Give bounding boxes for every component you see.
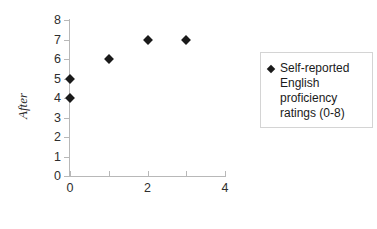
x-axis-tick xyxy=(186,171,187,176)
legend-entry-label: Self-reported English proficiency rating… xyxy=(280,61,368,121)
y-axis-tick-label: 7 xyxy=(39,34,61,47)
legend-entry: Self-reported English proficiency rating… xyxy=(268,61,368,121)
scatter-chart: 012345678 024 After Self-reported Englis… xyxy=(0,0,377,229)
y-axis-tick-label: 6 xyxy=(39,53,61,66)
data-point xyxy=(143,35,153,45)
y-axis-tick-label: 4 xyxy=(39,92,61,105)
x-axis-tick xyxy=(225,171,226,176)
y-axis-tick-label: 5 xyxy=(39,73,61,86)
x-axis-tick-label: 0 xyxy=(58,182,82,195)
x-axis-tick-label: 2 xyxy=(136,182,160,195)
data-point xyxy=(65,93,75,103)
y-axis-tick-label: 2 xyxy=(39,131,61,144)
y-axis-tick xyxy=(64,40,69,41)
y-axis-tick xyxy=(64,157,69,158)
data-point xyxy=(65,74,75,84)
y-axis-tick-label: 1 xyxy=(39,151,61,164)
y-axis-tick xyxy=(64,20,69,21)
y-axis-tick-label: 8 xyxy=(39,14,61,27)
legend: Self-reported English proficiency rating… xyxy=(260,52,373,128)
x-axis-tick xyxy=(148,171,149,176)
x-axis-line xyxy=(69,176,226,177)
diamond-marker-icon xyxy=(267,65,275,73)
y-axis-tick-label: 0 xyxy=(39,170,61,183)
y-axis-tick xyxy=(64,118,69,119)
x-axis-tick xyxy=(109,171,110,176)
y-axis-tick xyxy=(64,176,69,177)
data-point xyxy=(104,54,114,64)
x-axis-tick xyxy=(70,171,71,176)
y-axis-title: After xyxy=(15,76,31,136)
data-point xyxy=(181,35,191,45)
x-axis-tick-label: 4 xyxy=(213,182,237,195)
y-axis-tick-label: 3 xyxy=(39,112,61,125)
y-axis-tick xyxy=(64,59,69,60)
y-axis-tick xyxy=(64,137,69,138)
